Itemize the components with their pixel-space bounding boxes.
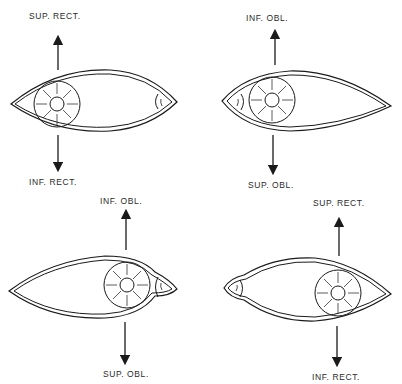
label-top: SUP. RECT. [29,11,81,21]
label-top: SUP. RECT. [313,198,365,208]
iris [249,77,295,123]
label-top: INF. OBL. [246,13,288,23]
eye-outline [11,70,177,131]
eye-muscle-diagram: SUP. RECT. INF. RECT. INF. OBL. [0,0,402,384]
caruncle [237,94,244,110]
eye-outline [224,258,391,321]
iris [34,81,80,127]
eye-outline [222,71,391,131]
iris [104,262,150,308]
label-top: INF. OBL. [100,196,142,206]
eye-outline [9,256,177,318]
panel-bottom-right: SUP. RECT. INF. RECT. [224,198,391,382]
caruncle [156,94,163,109]
panel-top-left: SUP. RECT. INF. RECT. [11,11,177,187]
panel-top-right: INF. OBL. SUP. OBL. [222,13,391,190]
label-bottom: INF. RECT. [29,177,77,187]
label-bottom: SUP. OBL. [248,180,294,190]
label-bottom: SUP. OBL. [103,369,149,379]
label-bottom: INF. RECT. [312,372,360,382]
iris [315,270,361,316]
panel-bottom-left: INF. OBL. SUP. OBL. [9,196,177,379]
